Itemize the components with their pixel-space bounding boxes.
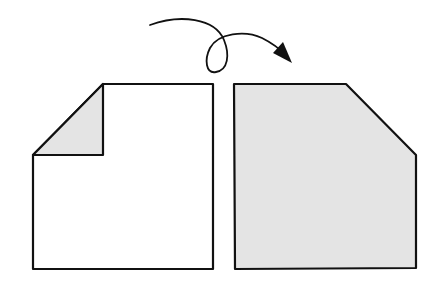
sheet-front	[33, 84, 213, 269]
folded-flap	[33, 84, 103, 155]
flipped-sheet	[234, 84, 416, 269]
folding-diagram	[0, 0, 437, 287]
arrowhead-icon	[273, 42, 292, 63]
sheet-back	[234, 84, 416, 269]
folded-corner-sheet	[33, 84, 213, 269]
turn-over-arrow-icon	[150, 19, 292, 72]
